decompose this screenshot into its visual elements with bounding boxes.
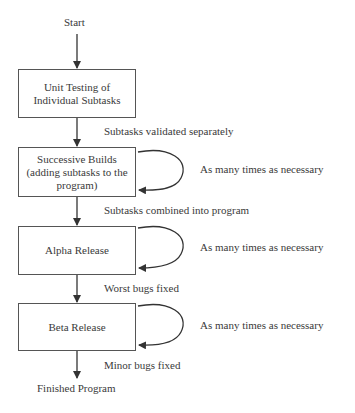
loop-label: As many times as necessary — [200, 241, 323, 253]
loop-label: As many times as necessary — [200, 319, 323, 331]
step-text: Unit Testing of — [33, 81, 120, 94]
step-text: Individual Subtasks — [33, 94, 120, 107]
transition-label: Subtasks combined into program — [104, 204, 249, 216]
step-alpha-release: Alpha Release — [18, 226, 136, 275]
loop-arrow-builds — [138, 151, 183, 191]
step-text: Beta Release — [48, 321, 105, 334]
step-successive-builds: Successive Builds (adding subtasks to th… — [18, 147, 136, 197]
loop-arrow-alpha — [138, 227, 183, 268]
transition-label: Minor bugs fixed — [104, 359, 180, 371]
loop-label: As many times as necessary — [200, 163, 323, 175]
step-text: Alpha Release — [45, 244, 109, 257]
step-unit-testing: Unit Testing of Individual Subtasks — [18, 69, 136, 118]
step-text: (adding subtasks to the — [26, 166, 127, 179]
step-text: program) — [26, 179, 127, 192]
transition-label: Worst bugs fixed — [104, 282, 179, 294]
transition-label: Subtasks validated separately — [104, 125, 234, 137]
start-label: Start — [64, 16, 85, 28]
step-text: Successive Builds — [26, 153, 127, 166]
end-label: Finished Program — [37, 382, 116, 394]
loop-arrow-beta — [138, 305, 183, 346]
step-beta-release: Beta Release — [18, 303, 136, 351]
